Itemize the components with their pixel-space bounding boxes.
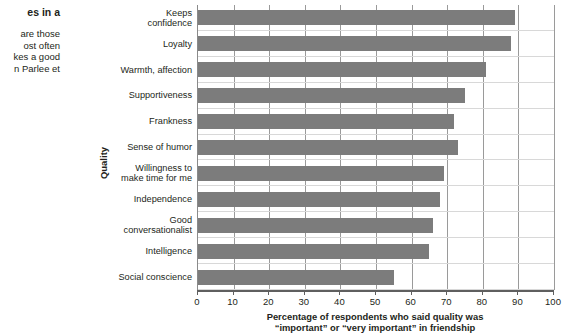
x-axis-title-line2: “important” or “very important” in frien… <box>197 322 553 333</box>
x-axis-title-line1: Percentage of respondents who said quali… <box>197 311 553 322</box>
y-axis-tick-labels: KeepsconfidenceLoyaltyWarmth, affectionS… <box>110 5 192 290</box>
bar <box>198 62 486 77</box>
x-axis-tick-label: 80 <box>477 296 488 307</box>
bar <box>198 244 429 259</box>
row-separator <box>198 134 554 135</box>
x-axis-tick-label: 20 <box>263 296 274 307</box>
bar <box>198 270 394 285</box>
x-axis-tick <box>553 290 554 295</box>
row-separator <box>198 211 554 212</box>
bar <box>198 140 458 155</box>
bar <box>198 114 454 129</box>
x-axis-tick <box>304 290 305 295</box>
row-separator <box>198 108 554 109</box>
x-axis-tick <box>482 290 483 295</box>
x-axis-tick-label: 0 <box>194 296 199 307</box>
gridline <box>518 5 519 290</box>
gridline <box>554 5 555 290</box>
row-separator <box>198 30 554 31</box>
x-axis-tick-label: 30 <box>299 296 310 307</box>
row-separator <box>198 56 554 57</box>
x-axis-tick <box>517 290 518 295</box>
bar-chart: Quality KeepsconfidenceLoyaltyWarmth, af… <box>0 0 567 334</box>
x-axis-tick-label: 90 <box>512 296 523 307</box>
x-axis-tick <box>339 290 340 295</box>
y-axis-tick-label: Supportiveness <box>110 90 192 100</box>
bar <box>198 166 444 181</box>
x-axis-tick-label: 60 <box>405 296 416 307</box>
bar <box>198 192 440 207</box>
y-axis-tick-label: Sense of humor <box>110 142 192 152</box>
y-axis-tick-label: Keepsconfidence <box>110 8 192 29</box>
row-separator <box>198 237 554 238</box>
x-axis-tick-label: 50 <box>370 296 381 307</box>
bar <box>198 10 515 25</box>
y-axis-tick-label: Intelligence <box>110 246 192 256</box>
x-axis-title: Percentage of respondents who said quali… <box>197 311 553 334</box>
x-axis-tick <box>197 290 198 295</box>
y-axis-tick-label: Willingness tomake time for me <box>110 163 192 184</box>
y-axis-tick-label: Warmth, affection <box>110 65 192 75</box>
y-axis-title-text: Quality <box>98 147 109 179</box>
x-axis-tick <box>375 290 376 295</box>
x-axis-tick <box>411 290 412 295</box>
y-axis-tick-label: Frankness <box>110 116 192 126</box>
x-axis-tick-label: 10 <box>227 296 238 307</box>
plot-area <box>197 5 554 290</box>
row-separator <box>198 159 554 160</box>
bar <box>198 88 465 103</box>
x-axis-tick-label: 70 <box>441 296 452 307</box>
bar <box>198 36 511 51</box>
row-separator <box>198 263 554 264</box>
y-axis-tick-label: Independence <box>110 194 192 204</box>
y-axis-tick-label: Goodconversationalist <box>110 215 192 236</box>
row-separator <box>198 185 554 186</box>
row-separator <box>198 82 554 83</box>
x-axis-tick-label: 40 <box>334 296 345 307</box>
x-axis-tick <box>446 290 447 295</box>
x-axis-tick <box>268 290 269 295</box>
bar <box>198 218 433 233</box>
y-axis-tick-label: Loyalty <box>110 39 192 49</box>
x-axis-tick-label: 100 <box>545 296 561 307</box>
y-axis-tick-label: Social conscience <box>110 272 192 282</box>
y-axis-title: Quality <box>96 118 110 208</box>
x-axis-tick <box>233 290 234 295</box>
